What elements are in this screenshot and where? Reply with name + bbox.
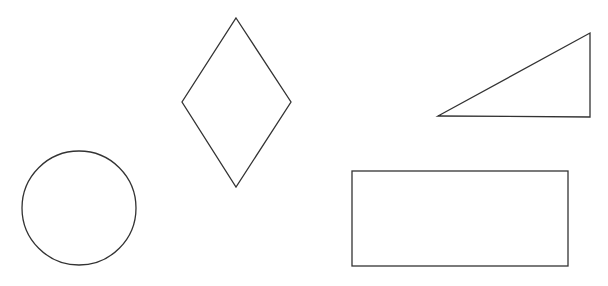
triangle-shape (438, 33, 590, 117)
shapes-canvas (0, 0, 608, 286)
rectangle-shape (352, 171, 568, 266)
circle-shape (22, 151, 136, 265)
diamond-shape (182, 18, 291, 187)
